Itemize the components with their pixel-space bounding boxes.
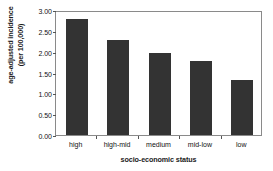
bar	[107, 40, 129, 135]
x-axis-tick-mark	[221, 136, 222, 139]
y-axis-tick-mark	[53, 32, 56, 33]
x-axis-tick-label: low	[213, 141, 269, 148]
x-axis-tick-mark	[96, 136, 97, 139]
bar	[66, 19, 88, 135]
y-axis-tick-label: 3.00	[28, 8, 52, 15]
bar-chart-figure: age-adjusted incidence (per 100,000) 0.0…	[0, 0, 273, 171]
bar	[149, 53, 171, 135]
y-axis-tick-mark	[53, 11, 56, 12]
y-axis-title-line2: (per 100,000)	[16, 24, 26, 67]
y-axis-tick-labels: 0.000.501.001.502.002.503.00	[28, 11, 52, 136]
bar	[190, 61, 212, 135]
x-axis-tick-mark	[179, 136, 180, 139]
y-axis-tick-label: 0.50	[28, 112, 52, 119]
y-axis-tick-mark	[53, 53, 56, 54]
y-axis-tick-mark	[53, 136, 56, 137]
bar	[231, 80, 253, 135]
x-axis-title: socio-economic status	[55, 155, 262, 164]
plot-area	[55, 11, 262, 136]
x-axis-tick-mark	[138, 136, 139, 139]
y-axis-tick-label: 0.00	[28, 133, 52, 140]
y-axis-tick-label: 1.00	[28, 91, 52, 98]
y-axis-tick-mark	[53, 94, 56, 95]
y-axis-title-line1: age-adjusted incidence	[6, 6, 16, 83]
y-axis-tick-mark	[53, 74, 56, 75]
y-axis-tick-mark	[53, 115, 56, 116]
bars-container	[56, 12, 261, 135]
y-axis-tick-label: 2.00	[28, 49, 52, 56]
y-axis-tick-label: 1.50	[28, 70, 52, 77]
y-axis-tick-label: 2.50	[28, 28, 52, 35]
